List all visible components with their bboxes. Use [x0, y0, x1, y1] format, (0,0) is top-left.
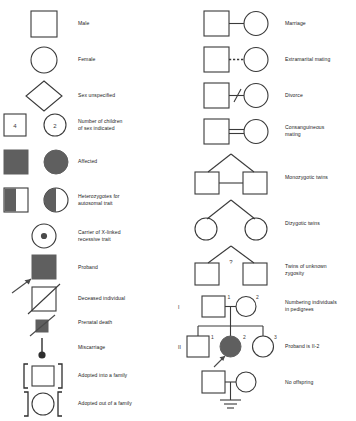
legend-label-no-offspring: No offspring [285, 379, 356, 386]
svg-text:?: ? [229, 259, 233, 265]
pedigree-legend: Male Female Sex unspecified [0, 0, 356, 421]
legend-label-adopted-into: Adopted into a family [78, 372, 176, 379]
legend-label-monozygotic-twins: Monozygotic twins [285, 174, 356, 181]
legend-label-heterozygotes: Heterozygotes for autosomal trait [78, 193, 176, 206]
square-and-circle-filled-icon [0, 148, 78, 176]
legend-label-numbering-individuals: Numbering individuals in pedigrees [285, 299, 356, 312]
legend-label-proband-is: Proband is II-2 [285, 343, 356, 350]
svg-text:2: 2 [256, 294, 259, 300]
stem-with-filled-dot-icon [0, 336, 78, 362]
svg-text:1: 1 [211, 334, 214, 340]
legend-label-dizygotic-twins: Dizygotic twins [285, 220, 356, 227]
legend-label-adopted-out: Adopted out of a family [78, 400, 176, 407]
square-in-brackets-icon [0, 362, 78, 390]
diamond-open-icon [0, 79, 78, 113]
svg-text:1: 1 [228, 294, 231, 300]
small-filled-square-with-slash-icon [0, 312, 78, 338]
couple-line-with-slash-icon [178, 80, 285, 112]
couple-solid-line-icon [178, 8, 285, 40]
legend-label-extramarital-mating: Extramarital mating [285, 56, 356, 63]
generation-label-1: I [178, 304, 179, 310]
twins-circles-separate-icon [178, 198, 285, 242]
legend-column-right: Marriage Extramarital mating [178, 0, 356, 421]
twins-squares-joined-icon [178, 152, 285, 196]
generation-label-2: II [178, 344, 181, 350]
couple-double-line-icon [178, 116, 285, 148]
couple-dashed-line-icon [178, 44, 285, 76]
svg-text:4: 4 [13, 123, 17, 129]
legend-label-miscarriage: Miscarriage [78, 344, 176, 351]
square-and-circle-numbered-icon: 4 2 [0, 112, 78, 138]
legend-label-affected: Affected [78, 158, 176, 165]
legend-label-twins-unknown-zygosity: Twins of unknown zygosity [285, 263, 356, 276]
legend-label-number-of-children: Number of children of sex indicated [78, 118, 176, 131]
square-open-icon [0, 8, 78, 40]
svg-text:3: 3 [274, 334, 277, 340]
legend-label-deceased: Deceased individual [78, 295, 176, 302]
legend-label-proband: Proband [78, 264, 176, 271]
legend-label-female: Female [78, 56, 176, 63]
circle-with-center-dot-icon [0, 222, 78, 250]
legend-column-left: Male Female Sex unspecified [0, 0, 178, 421]
legend-label-consanguineous-mating: Consanguineous mating [285, 124, 356, 137]
pedigree-numbering-icon: 1 2 1 2 3 [178, 292, 285, 368]
circle-in-reversed-brackets-icon [0, 390, 78, 418]
twins-squares-question-icon: ? [178, 244, 285, 288]
square-with-slash-icon [0, 284, 78, 314]
svg-text:2: 2 [243, 334, 246, 340]
legend-label-prenatal-death: Prenatal death [78, 319, 176, 326]
legend-label-marriage: Marriage [285, 20, 356, 27]
circle-open-icon [0, 44, 78, 76]
legend-label-carrier-x-linked: Carrier of X-linked recessive trait [78, 229, 176, 242]
legend-label-sex-unspecified: Sex unspecified [78, 92, 176, 99]
svg-text:2: 2 [53, 123, 57, 129]
couple-no-offspring-icon [178, 368, 285, 416]
legend-label-divorce: Divorce [285, 92, 356, 99]
legend-label-male: Male [78, 20, 176, 27]
square-and-circle-half-filled-icon [0, 186, 78, 214]
